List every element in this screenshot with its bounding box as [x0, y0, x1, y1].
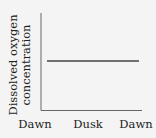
x-tick-dawn-end: Dawn	[119, 117, 152, 131]
line-chart: Dissolved oxygen concentration Dawn Dusk…	[0, 0, 156, 138]
x-tick-dawn-start: Dawn	[18, 117, 51, 131]
x-tick-dusk: Dusk	[73, 117, 103, 131]
